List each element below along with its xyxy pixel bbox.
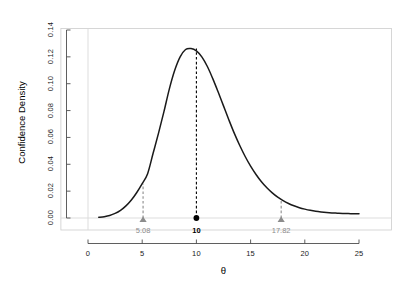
plot-canvas xyxy=(0,0,417,289)
annotation-label-upper-bound: 17.82 xyxy=(261,226,301,235)
annotation-label-lower-bound: 5.08 xyxy=(123,226,163,235)
reference-lines xyxy=(61,29,392,231)
x-tick-label: 15 xyxy=(236,249,266,258)
y-tick-label: 0.14 xyxy=(45,18,54,42)
y-axis-title: Confidence Density xyxy=(16,53,27,193)
y-tick-label: 0.10 xyxy=(45,71,54,95)
density-curve xyxy=(99,48,359,217)
y-tick-label: 0.04 xyxy=(45,152,54,176)
annotation-markers xyxy=(139,215,284,222)
plot-border xyxy=(61,29,392,231)
x-tick-label: 10 xyxy=(181,249,211,258)
x-tick-label: 25 xyxy=(344,249,374,258)
confidence-density-chart: Confidence Density θ 0.000.020.040.060.0… xyxy=(0,0,417,289)
annotation-label-point-estimate: 10 xyxy=(176,226,216,235)
x-axis-title: θ xyxy=(194,265,254,276)
y-tick-label: 0.06 xyxy=(45,125,54,149)
y-tick-label: 0.02 xyxy=(45,179,54,203)
annotation-dashed-lines xyxy=(143,49,281,218)
x-tick-label: 0 xyxy=(73,249,103,258)
x-tick-label: 5 xyxy=(127,249,157,258)
y-tick-label: 0.12 xyxy=(45,44,54,68)
y-tick-label: 0.08 xyxy=(45,98,54,122)
y-tick-label: 0.00 xyxy=(45,206,54,230)
x-tick-label: 20 xyxy=(290,249,320,258)
